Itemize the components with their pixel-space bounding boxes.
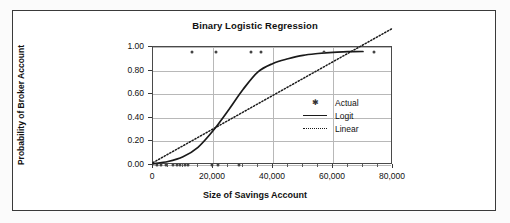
y-tick-mark [148,140,152,141]
y-tick-mark [148,117,152,118]
y-axis-label: Probability of Broker Account [16,40,26,170]
chart-title: Binary Logistic Regression [0,20,510,31]
x-tick-mark [332,164,333,168]
actual-data-point [186,164,189,167]
x-tick-minor [182,164,183,167]
x-tick-minor [362,164,363,167]
dotted-line-icon [302,128,328,129]
x-tick-label: 20,000 [190,171,234,181]
legend-label: Linear [335,124,359,134]
actual-data-point [159,164,162,167]
figure-canvas: Binary Logistic Regression Size of Savin… [0,0,510,223]
y-tick-mark [148,46,152,47]
x-tick-minor [242,164,243,167]
x-tick-minor [167,164,168,167]
solid-line-icon [302,115,328,116]
y-tick-label: 0.80 [110,65,144,75]
x-tick-mark [272,164,273,168]
x-tick-mark [212,164,213,168]
actual-data-point [171,164,174,167]
x-axis-label: Size of Savings Account [0,190,510,200]
x-tick-label: 80,000 [370,171,414,181]
x-tick-label: 0 [130,171,174,181]
legend-item-linear: Linear [302,122,359,135]
x-tick-label: 40,000 [250,171,294,181]
legend-item-actual: ✱ Actual [302,96,359,109]
x-tick-minor [227,164,228,167]
actual-data-point [260,50,263,53]
x-tick-mark [392,164,393,168]
actual-data-point [216,164,219,167]
chart-legend: ✱ Actual Logit Linear [302,96,359,135]
legend-label: Logit [335,111,353,121]
y-tick-label: 1.00 [110,41,144,51]
x-tick-mark [152,164,153,168]
x-tick-minor [347,164,348,167]
asterisk-marker-icon: ✱ [302,99,328,107]
x-tick-minor [302,164,303,167]
legend-item-logit: Logit [302,109,359,122]
y-tick-label: 0.40 [110,112,144,122]
actual-data-point [155,164,158,167]
actual-data-point [249,50,252,53]
actual-data-point [237,164,240,167]
actual-data-point [323,50,326,53]
x-tick-label: 60,000 [310,171,354,181]
actual-data-point [215,50,218,53]
x-tick-minor [197,164,198,167]
y-tick-mark [148,70,152,71]
legend-label: Actual [335,98,359,108]
x-tick-minor [257,164,258,167]
x-tick-minor [317,164,318,167]
actual-data-point [191,50,194,53]
y-tick-mark [148,93,152,94]
x-tick-minor [377,164,378,167]
y-tick-label: 0.00 [110,159,144,169]
x-tick-minor [287,164,288,167]
y-tick-label: 0.20 [110,135,144,145]
y-tick-label: 0.60 [110,88,144,98]
actual-data-point [372,50,375,53]
